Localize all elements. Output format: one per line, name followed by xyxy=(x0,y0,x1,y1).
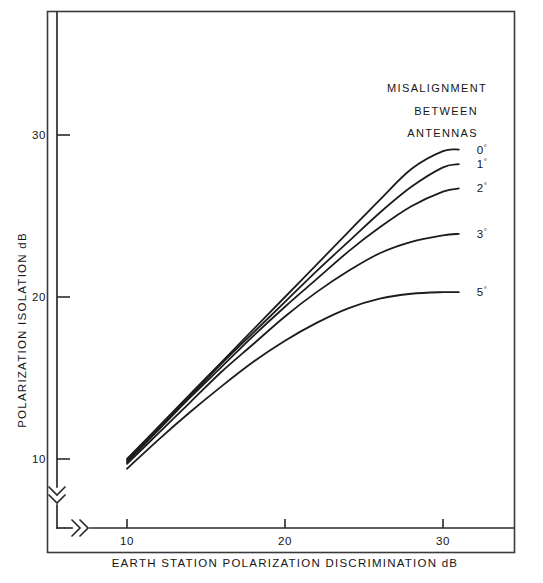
polarization-isolation-chart: 102030 102030 0°1°2°3°5° MISALIGNMENT BE… xyxy=(0,0,543,583)
y-tick-label: 10 xyxy=(32,453,46,465)
y-tick-label: 30 xyxy=(32,129,46,141)
y-tick-labels: 102030 xyxy=(32,129,46,465)
x-tick-label: 30 xyxy=(436,535,450,547)
degree-symbol-icon: ° xyxy=(484,142,488,151)
chart-canvas: 102030 102030 0°1°2°3°5° MISALIGNMENT BE… xyxy=(0,0,543,583)
x-tick-label: 10 xyxy=(120,535,134,547)
degree-symbol-icon: ° xyxy=(484,285,488,294)
legend-title-line-3: ANTENNAS xyxy=(407,127,478,139)
legend-title-line-1: MISALIGNMENT xyxy=(387,82,487,94)
series-label-value: 5 xyxy=(477,286,484,298)
x-axis-title: EARTH STATION POLARIZATION DISCRIMINATIO… xyxy=(112,557,459,569)
x-tick-label: 20 xyxy=(278,535,292,547)
series-label-value: 1 xyxy=(477,158,484,170)
y-tick-label: 20 xyxy=(32,291,46,303)
y-axis-title: POLARIZATION ISOLATION dB xyxy=(16,232,28,428)
legend-title-line-2: BETWEEN xyxy=(414,105,478,117)
degree-symbol-icon: ° xyxy=(484,181,488,190)
series-label-value: 2 xyxy=(477,182,484,194)
series-label-value: 3 xyxy=(477,228,484,240)
degree-symbol-icon: ° xyxy=(484,157,488,166)
series-label-value: 0 xyxy=(477,144,484,156)
degree-symbol-icon: ° xyxy=(484,226,488,235)
